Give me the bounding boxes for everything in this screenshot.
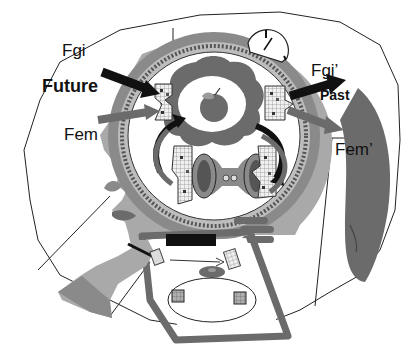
diagram-canvas: Fgi Future Fem Fgi’ Past Fem’: [0, 0, 410, 364]
label-fgi: Fgi: [62, 41, 86, 60]
cube-left: [172, 290, 184, 302]
black-bar: [166, 234, 216, 246]
label-future: Future: [42, 76, 98, 96]
label-fem-prime: Fem’: [335, 140, 373, 159]
small-cloud: [199, 266, 225, 278]
cube-right: [234, 292, 246, 304]
label-fgi-prime: Fgi’: [311, 61, 338, 80]
label-fem: Fem: [64, 125, 98, 144]
label-past: Past: [320, 87, 350, 103]
